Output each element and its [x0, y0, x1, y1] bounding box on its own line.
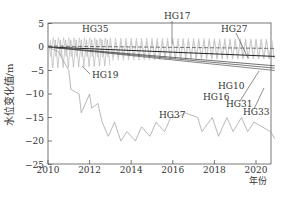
x-tick-label: 2012 [78, 165, 101, 175]
x-tick-label: 2020 [245, 165, 268, 175]
series-labels: HG35HG17HG27HG19HG10HG16HG31HG33HG37 [82, 11, 270, 120]
y-tick-label: −5 [31, 66, 45, 76]
series-label-hg10: HG10 [218, 81, 245, 91]
series-label-hg35: HG35 [82, 24, 109, 34]
series-label-hg17: HG17 [164, 11, 191, 21]
series-label-hg27: HG27 [221, 24, 248, 34]
water-level-chart: 50−5−10−15−20−25201020122014201620182020… [0, 0, 286, 201]
series-label-hg33: HG33 [243, 107, 270, 117]
y-tick-label: 5 [38, 19, 44, 29]
y-axis-label: 水位变化值/m [3, 63, 15, 126]
series-label-hg37: HG37 [159, 110, 186, 120]
x-axis-label: 年份 [249, 175, 267, 186]
x-tick-label: 2014 [120, 165, 143, 175]
series-HG37 [48, 47, 275, 141]
series-label-hg19: HG19 [92, 70, 119, 80]
leader-line [82, 66, 90, 74]
x-tick-label: 2010 [37, 165, 60, 175]
y-tick-label: −15 [25, 113, 44, 123]
y-tick-label: −20 [25, 136, 44, 146]
x-tick-label: 2016 [161, 165, 184, 175]
y-tick-label: −10 [25, 89, 44, 99]
y-tick-label: 0 [38, 42, 44, 52]
leader-line [254, 88, 264, 109]
x-tick-label: 2018 [203, 165, 226, 175]
